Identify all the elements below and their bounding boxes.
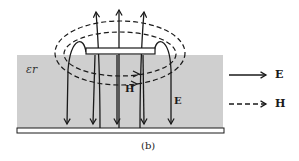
e-field-inline-label: E bbox=[174, 96, 182, 106]
microstrip-field-diagram bbox=[0, 0, 299, 161]
dielectric-substrate bbox=[17, 55, 223, 129]
ground-plane bbox=[17, 128, 224, 133]
dielectric-permittivity-label: εr bbox=[26, 64, 37, 75]
h-field-inline-label: H bbox=[125, 84, 134, 94]
figure-caption: (b) bbox=[141, 141, 155, 151]
legend-h-label: H bbox=[275, 98, 285, 109]
legend-arrows bbox=[229, 75, 266, 104]
legend-e-label: E bbox=[275, 69, 283, 80]
strip-conductor bbox=[86, 48, 155, 54]
